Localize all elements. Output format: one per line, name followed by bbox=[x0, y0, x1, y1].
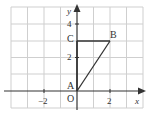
y-axis-arrow-icon bbox=[74, 4, 81, 12]
point-A-label: A bbox=[67, 80, 75, 91]
x-tick-neg2: −2 bbox=[38, 96, 48, 106]
y-tick-4: 4 bbox=[67, 19, 72, 29]
y-axis-label: y bbox=[66, 6, 71, 16]
point-C-label: C bbox=[67, 33, 74, 44]
coordinate-diagram: y x 4 2 −2 2 C B A O bbox=[0, 0, 149, 116]
point-O-label: O bbox=[67, 93, 74, 104]
x-tick-2: 2 bbox=[107, 96, 112, 106]
x-axis-arrow-icon bbox=[138, 88, 146, 95]
point-B-label: B bbox=[110, 29, 117, 40]
y-tick-2: 2 bbox=[67, 52, 72, 62]
x-axis-label: x bbox=[134, 96, 139, 106]
